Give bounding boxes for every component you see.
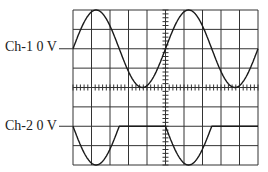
ch2-zero-label: Ch-2 0 V xyxy=(5,119,57,133)
ch1-zero-label: Ch-1 0 V xyxy=(5,40,57,54)
oscilloscope-screen xyxy=(0,0,268,172)
